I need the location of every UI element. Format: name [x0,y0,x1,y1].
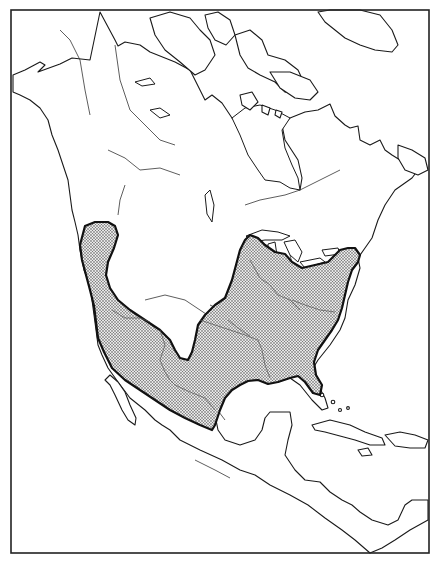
range-map [0,0,437,561]
map-canvas [0,0,437,561]
continent-north-america [13,12,428,553]
greenland [318,10,398,52]
caribbean-islands [312,393,428,456]
